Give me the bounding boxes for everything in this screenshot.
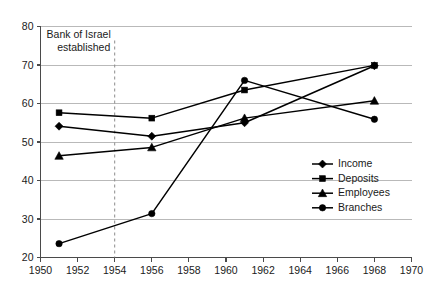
series-line-employees [59,101,374,156]
x-tick-label-1970: 1970 [400,264,424,276]
x-tick-label-1964: 1964 [289,264,313,276]
x-tick-label-1956: 1956 [140,264,164,276]
legend-item-income[interactable]: Income [312,157,373,169]
series-deposits [56,62,377,121]
chart-container: 20304050607080 1950195219541956195819601… [0,0,427,287]
y-axis-tick-labels: 20304050607080 [22,20,34,263]
y-tick-label-80: 80 [22,20,34,32]
x-tick-label-1958: 1958 [177,264,201,276]
y-axis [37,27,41,258]
data-point-deposits-1951 [56,110,62,116]
series-line-deposits [59,65,374,118]
y-tick-label-30: 30 [22,213,34,225]
legend-label-employees: Employees [338,186,390,198]
data-point-deposits-1968 [372,62,378,68]
x-axis-tick-labels: 1950195219541956195819601962196419661968… [29,264,424,276]
y-tick-label-50: 50 [22,136,34,148]
y-tick-label-60: 60 [22,97,34,109]
legend-marker-income [319,160,327,168]
legend-item-deposits[interactable]: Deposits [312,172,379,184]
legend-label-branches: Branches [338,201,382,213]
data-point-branches-1968 [371,116,377,122]
x-tick-label-1950: 1950 [29,264,53,276]
data-point-income-1956 [148,132,156,140]
legend-marker-deposits [320,176,326,182]
data-point-income-1951 [55,122,63,130]
y-tick-label-20: 20 [22,251,34,263]
data-point-employees-1968 [370,97,378,105]
chart-legend: IncomeDepositsEmployeesBranches [312,157,390,213]
legend-label-deposits: Deposits [338,172,379,184]
x-tick-label-1954: 1954 [103,264,127,276]
data-point-deposits-1956 [149,115,155,121]
legend-item-branches[interactable]: Branches [312,201,382,213]
series-line-income [59,66,374,136]
data-point-branches-1951 [56,240,62,246]
line-chart: 20304050607080 1950195219541956195819601… [0,0,427,287]
data-point-branches-1961 [241,77,247,83]
legend-item-employees[interactable]: Employees [312,186,390,198]
legend-label-income: Income [338,157,373,169]
x-tick-label-1966: 1966 [326,264,350,276]
y-tick-label-40: 40 [22,174,34,186]
data-point-branches-1956 [149,210,155,216]
data-point-deposits-1961 [242,87,248,93]
series-branches [56,77,378,247]
x-tick-label-1968: 1968 [363,264,387,276]
gridlines [41,27,412,258]
x-tick-label-1960: 1960 [214,264,238,276]
annotation-line-2: established [57,41,110,53]
legend-marker-branches [319,205,325,211]
x-axis [41,258,412,262]
x-tick-label-1952: 1952 [66,264,90,276]
y-tick-label-70: 70 [22,59,34,71]
annotation-line-1: Bank of Israel [47,28,111,40]
x-tick-label-1962: 1962 [251,264,275,276]
